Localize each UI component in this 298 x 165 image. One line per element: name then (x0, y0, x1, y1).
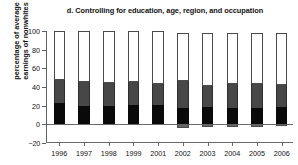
bar-segment-middle (54, 80, 66, 103)
bar-1998[interactable] (103, 31, 115, 143)
bar-segment-negative (202, 124, 214, 126)
bar-segment-lower (202, 107, 214, 125)
y-tick (42, 106, 46, 107)
y-tick (42, 68, 46, 69)
bar-1996[interactable] (54, 31, 66, 143)
bar-segment-upper (54, 31, 66, 80)
x-tick-label: 1996 (51, 149, 67, 158)
bar-segment-lower (103, 106, 115, 124)
x-tick-label: 1998 (101, 149, 117, 158)
y-tick (42, 124, 46, 125)
bar-2002[interactable] (177, 31, 189, 143)
bar-2001[interactable] (152, 31, 164, 143)
bar-2004[interactable] (227, 31, 239, 143)
bar-segment-negative (276, 124, 288, 126)
bar-segment-lower (177, 108, 189, 125)
bar-segment-middle (128, 82, 140, 105)
bar-segment-upper (227, 33, 239, 84)
y-tick-label: 20 (32, 101, 40, 110)
bar-segment-middle (276, 85, 288, 106)
bar-segment-upper (177, 33, 189, 81)
bar-segment-upper (251, 33, 263, 84)
y-tick-label: 0 (36, 120, 40, 129)
bar-segment-middle (202, 86, 214, 107)
bar-segment-upper (103, 31, 115, 83)
y-tick (42, 143, 46, 144)
bar-segment-middle (103, 83, 115, 106)
bar-segment-negative (177, 124, 189, 127)
y-tick (42, 31, 46, 32)
x-tick-label: 2003 (200, 149, 216, 158)
x-tick-label: 1999 (125, 149, 141, 158)
bar-2006[interactable] (276, 31, 288, 143)
y-tick-label: −20 (28, 139, 40, 148)
bar-segment-middle (177, 81, 189, 108)
y-axis-title: percentage of average earnings of nonwhi… (13, 0, 30, 93)
x-tick-label: 2006 (274, 149, 290, 158)
bar-segment-middle (227, 84, 239, 108)
bar-segment-upper (276, 33, 288, 85)
bar-segment-middle (78, 82, 90, 105)
bar-segment-lower (227, 108, 239, 125)
bar-1997[interactable] (78, 31, 90, 143)
x-tick-label: 2002 (175, 149, 191, 158)
y-tick-label: 60 (32, 64, 40, 73)
bar-segment-lower (54, 103, 66, 124)
x-tick-label: 2001 (150, 149, 166, 158)
bar-segment-lower (276, 107, 288, 125)
bar-segment-lower (128, 105, 140, 124)
y-tick (42, 50, 46, 51)
bar-segment-upper (152, 31, 164, 84)
bar-segment-upper (78, 31, 90, 82)
x-tick-label: 1997 (76, 149, 92, 158)
plot-area: 100806040200−20 199619971998199920012002… (46, 31, 293, 143)
y-tick-label: 80 (32, 45, 40, 54)
y-tick-label: 40 (32, 83, 40, 92)
bar-segment-lower (251, 108, 263, 124)
x-tick-label: 2004 (224, 149, 240, 158)
y-axis-title-wrap: percentage of average earnings of nonwhi… (11, 0, 33, 93)
bar-segment-middle (152, 84, 164, 105)
bar-1999[interactable] (128, 31, 140, 143)
bar-segment-lower (152, 105, 164, 125)
x-tick-label: 2005 (249, 149, 265, 158)
bar-2003[interactable] (202, 31, 214, 143)
chart-container: d. Controlling for education, age, regio… (0, 0, 298, 165)
y-tick (42, 87, 46, 88)
bar-segment-upper (202, 33, 214, 86)
bar-segment-negative (251, 124, 263, 127)
bar-segment-upper (128, 31, 140, 82)
y-axis-line (46, 31, 47, 143)
bar-segment-lower (78, 106, 90, 125)
bar-segment-negative (227, 124, 239, 127)
bar-segment-middle (251, 84, 263, 108)
y-tick-label: 100 (28, 27, 40, 36)
bar-2005[interactable] (251, 31, 263, 143)
chart-title: d. Controlling for education, age, regio… (36, 6, 294, 15)
